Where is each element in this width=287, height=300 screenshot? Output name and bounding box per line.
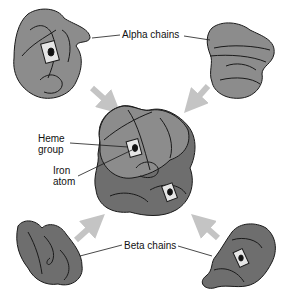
alpha-chain-left [14,9,90,98]
label-heme-group-line1: Heme [38,133,65,144]
beta-chain-left [17,221,82,285]
label-beta-chains: Beta chains [124,240,176,251]
leader-beta-right [178,246,212,256]
label-iron-atom-line2: atom [53,176,75,187]
arrow-beta-right [200,222,218,238]
arrow-alpha-left [92,88,112,106]
label-iron-atom-line1: Iron [53,165,75,176]
leader-beta-left [80,245,122,256]
iron-atom-alpha-left [48,48,54,56]
leader-alpha-left [92,35,120,38]
arrow-alpha-right [192,86,208,104]
iron-atom-beta-right [239,255,243,261]
label-iron-atom: Iron atom [53,165,75,187]
iron-atom-complex-alpha [132,145,137,152]
iron-atom-complex-beta [168,189,173,195]
alpha-chain-right [207,23,274,98]
label-heme-group: Heme group [38,133,65,155]
label-heme-group-line2: group [38,144,65,155]
arrow-beta-left [76,222,96,240]
leader-alpha-right [184,36,210,40]
label-alpha-chains: Alpha chains [122,29,179,40]
